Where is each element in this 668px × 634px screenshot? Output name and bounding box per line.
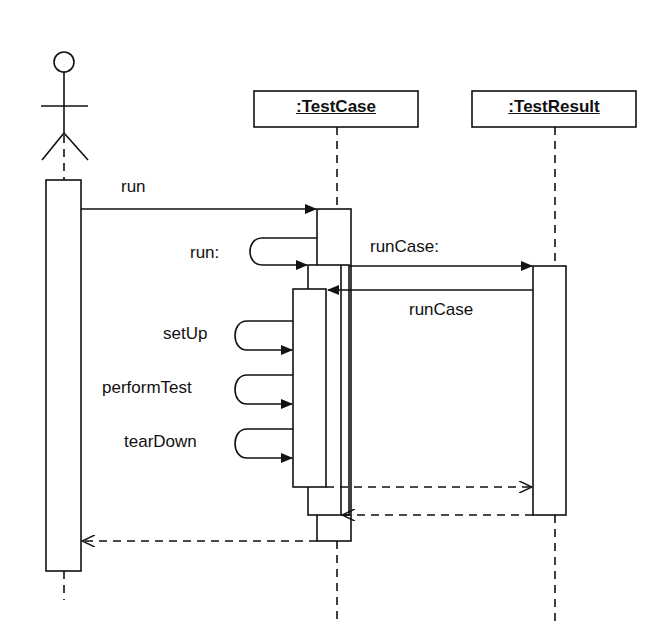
msg-setup-label: setUp (163, 324, 207, 344)
testresult-activation (533, 266, 566, 515)
msg-runcase-label: runCase (409, 300, 473, 320)
msg-run-label: run (121, 177, 146, 197)
testcase-label: :TestCase (254, 97, 418, 117)
actor-activation (46, 180, 81, 571)
sequence-diagram (0, 0, 668, 634)
msg-setup (235, 321, 293, 350)
msg-performtest-label: performTest (102, 378, 192, 398)
testcase-activation-runcase (293, 289, 326, 487)
msg-runcase-call-label: runCase: (370, 237, 439, 257)
actor-icon (41, 52, 88, 160)
msg-run-self-label: run: (190, 243, 219, 263)
msg-performtest (235, 375, 293, 404)
msg-teardown-label: tearDown (124, 432, 197, 452)
msg-run-self (250, 238, 317, 265)
msg-teardown (235, 429, 293, 458)
testresult-label: :TestResult (472, 97, 636, 117)
